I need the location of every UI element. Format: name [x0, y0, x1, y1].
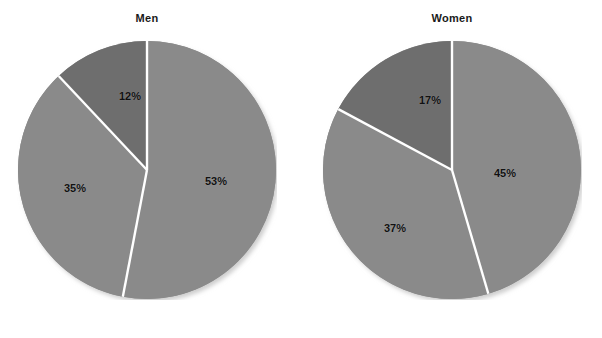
- pie-men-slice-label-2: 12%: [119, 90, 141, 102]
- pie-chart-men: 53% 35% 12%: [17, 40, 277, 300]
- pie-women-slice-label-2: 17%: [419, 94, 441, 106]
- chart-title-men: Men: [136, 12, 159, 24]
- pie-women-slice-label-0: 45%: [494, 167, 516, 179]
- pie-men-slice-label-0: 53%: [205, 175, 227, 187]
- pie-chart-figure: Men 53% 35% 12% Women: [0, 0, 602, 338]
- pie-women-svg: [322, 40, 582, 300]
- pie-men-slice-label-1: 35%: [64, 182, 86, 194]
- pie-chart-women: 45% 37% 17%: [322, 40, 582, 300]
- pie-men-svg: [17, 40, 277, 300]
- pie-women-slice-label-1: 37%: [384, 222, 406, 234]
- chart-title-women: Women: [431, 12, 472, 24]
